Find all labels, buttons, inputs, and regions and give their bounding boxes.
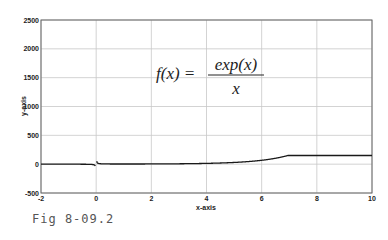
y-tick-label: 1500 xyxy=(23,74,39,81)
x-tick-label: 6 xyxy=(260,195,264,202)
x-tick-label: 0 xyxy=(94,195,98,202)
formula-lhs: f(x) = xyxy=(156,64,195,83)
x-tick-label: 2 xyxy=(149,195,153,202)
formula-numerator: exp(x) xyxy=(215,55,258,74)
x-tick-labels: -20246810 xyxy=(38,195,376,202)
y-axis-label: y-axis xyxy=(20,96,28,116)
x-axis-label: x-axis xyxy=(196,204,216,211)
x-tick-label: 4 xyxy=(205,195,209,202)
figure-caption: Fig 8-09.2 xyxy=(32,212,114,226)
y-tick-label: 2000 xyxy=(23,45,39,52)
formula-annotation: f(x) = exp(x) x xyxy=(156,55,264,98)
x-tick-label: 10 xyxy=(368,195,376,202)
y-tick-label: 2500 xyxy=(23,17,39,24)
y-tick-label: 500 xyxy=(27,132,39,139)
chart: -50005001000150020002500 -20246810 x-axi… xyxy=(0,0,388,240)
grid-lines xyxy=(41,20,372,193)
x-tick-label: 8 xyxy=(315,195,319,202)
x-tick-label: -2 xyxy=(38,195,44,202)
y-tick-label: 0 xyxy=(35,161,39,168)
formula-denominator: x xyxy=(231,79,240,98)
